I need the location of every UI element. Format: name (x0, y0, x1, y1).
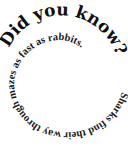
spiral-text-graphic: Did you know? Sharks find their way thro… (0, 0, 128, 151)
headline-path: Did you know? (0, 0, 128, 58)
headline-text: Did you know? (0, 0, 128, 58)
spiral-svg: Did you know? Sharks find their way thro… (0, 0, 128, 151)
